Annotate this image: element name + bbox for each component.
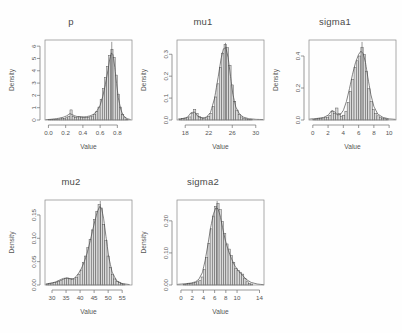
x-axis-title: Value (80, 143, 97, 150)
x-tick-label: 0.2 (61, 129, 70, 136)
y-tick-label: 0.2 (294, 83, 301, 92)
x-tick-label: 4 (202, 294, 206, 301)
x-tick-label: 2 (326, 129, 330, 136)
x-tick-label: 50 (105, 294, 112, 301)
x-tick-label: 18 (182, 129, 189, 136)
x-tick-label: 55 (119, 294, 126, 301)
x-tick-label: 45 (91, 294, 98, 301)
panel-mu1: mu118222630Value0.00.10.20.3Density (136, 16, 270, 166)
x-tick-label: 6 (357, 129, 361, 136)
x-tick-label: 30 (49, 294, 56, 301)
y-tick-label: 0.0 (294, 115, 301, 124)
y-axis-title: Density (140, 231, 148, 254)
plot-sigma2: 024681014Value0.000.100.20Density (136, 190, 270, 331)
x-tick-label: 35 (63, 294, 70, 301)
y-tick-label: 4 (30, 68, 37, 72)
panel-sigma1: sigma10246810Value0.00.20.4Density (268, 16, 402, 166)
y-tick-label: 0 (30, 118, 37, 122)
panel-title-mu1: mu1 (136, 16, 270, 28)
histogram-bars (46, 205, 125, 285)
y-tick-label: 1 (30, 105, 37, 109)
histogram-bars (48, 49, 128, 120)
plot-sigma1: 0246810Value0.00.20.4Density (268, 30, 402, 166)
y-tick-label: 0.15 (30, 208, 37, 221)
y-axis-title: Density (8, 68, 16, 91)
y-tick-label: 0.10 (162, 246, 169, 259)
panel-mu2: mu2303540455055Value0.000.050.100.15Dens… (4, 176, 138, 331)
x-tick-label: 8 (372, 129, 376, 136)
histogram-bars (179, 44, 252, 120)
y-tick-label: 0.0 (162, 115, 169, 124)
x-tick-label: 0.0 (44, 129, 53, 136)
x-tick-label: 8 (224, 294, 228, 301)
y-tick-label: 0.3 (162, 49, 169, 58)
y-tick-label: 0.10 (30, 232, 37, 245)
histogram-bars (183, 203, 253, 285)
y-axis-title: Density (272, 68, 280, 91)
x-tick-label: 0 (179, 294, 183, 301)
panel-title-sigma1: sigma1 (268, 16, 402, 28)
y-tick-label: 3 (30, 81, 37, 85)
y-tick-label: 0.00 (162, 278, 169, 291)
x-axis-title: Value (80, 308, 97, 315)
y-axis-title: Density (140, 68, 148, 91)
y-tick-label: 2 (30, 93, 37, 97)
x-tick-label: 2 (190, 294, 194, 301)
x-tick-label: 4 (342, 129, 346, 136)
x-tick-label: 10 (234, 294, 241, 301)
panel-title-sigma2: sigma2 (136, 176, 270, 188)
x-axis-title: Value (344, 143, 361, 150)
x-tick-label: 10 (386, 129, 393, 136)
plot-mu2: 303540455055Value0.000.050.100.15Density (4, 190, 138, 331)
x-tick-label: 0.6 (96, 129, 105, 136)
panel-title-p: p (4, 16, 138, 28)
y-tick-label: 5 (30, 56, 37, 60)
y-tick-label: 0.2 (162, 71, 169, 80)
panel-title-mu2: mu2 (4, 176, 138, 188)
x-tick-label: 14 (256, 294, 263, 301)
x-axis-title: Value (212, 143, 229, 150)
x-tick-label: 30 (252, 129, 259, 136)
y-tick-label: 6 (30, 44, 37, 48)
y-tick-label: 0.05 (30, 255, 37, 268)
panel-sigma2: sigma2024681014Value0.000.100.20Density (136, 176, 270, 331)
x-tick-label: 26 (229, 129, 236, 136)
x-axis-title: Value (212, 308, 229, 315)
x-tick-label: 0.4 (79, 129, 88, 136)
y-tick-label: 0.4 (294, 51, 301, 60)
y-tick-label: 0.1 (162, 93, 169, 102)
panel-p: p0.00.20.40.60.8Value0123456Density (4, 16, 138, 166)
x-tick-label: 22 (205, 129, 212, 136)
x-tick-label: 6 (213, 294, 217, 301)
figure-canvas: p0.00.20.40.60.8Value0123456Densitymu118… (0, 0, 402, 333)
y-axis-title: Density (8, 231, 16, 254)
x-tick-label: 0 (311, 129, 315, 136)
y-tick-label: 0.20 (162, 214, 169, 227)
x-tick-label: 0.8 (113, 129, 122, 136)
x-tick-label: 40 (77, 294, 84, 301)
plot-mu1: 18222630Value0.00.10.20.3Density (136, 30, 270, 166)
plot-p: 0.00.20.40.60.8Value0123456Density (4, 30, 138, 166)
y-tick-label: 0.00 (30, 278, 37, 291)
